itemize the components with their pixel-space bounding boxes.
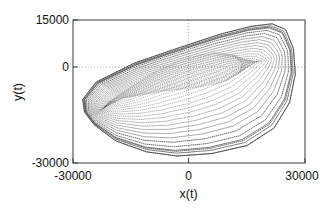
xtick-label-left: -30000 xyxy=(54,169,92,183)
phase-portrait-chart: 15000 0 -30000 -30000 0 30000 x(t) y(t) xyxy=(0,0,327,211)
ytick-label-top: 15000 xyxy=(36,13,70,27)
chart-background xyxy=(0,0,327,211)
xtick-label-right: 30000 xyxy=(285,169,319,183)
ytick-label-mid: 0 xyxy=(62,60,69,74)
xtick-label-mid: 0 xyxy=(185,169,192,183)
x-axis-title: x(t) xyxy=(180,187,198,201)
y-axis-title: y(t) xyxy=(11,83,25,101)
ytick-label-bottom: -30000 xyxy=(32,156,70,170)
